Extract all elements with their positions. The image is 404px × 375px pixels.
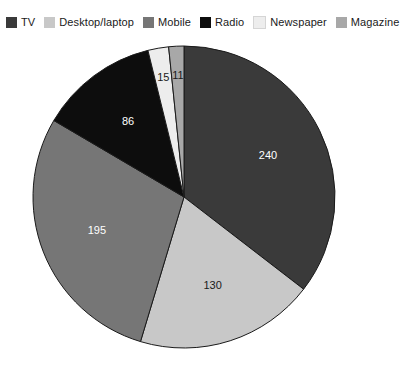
pie-slice-value-label: 11 [172,69,183,81]
pie-slice-value-label: 130 [203,279,221,291]
pie-slice-value-label: 15 [157,71,169,83]
pie-slice-value-label: 195 [88,224,106,236]
pie-slice-value-label: 86 [122,115,134,127]
pie-slice-value-label: 240 [259,149,277,161]
